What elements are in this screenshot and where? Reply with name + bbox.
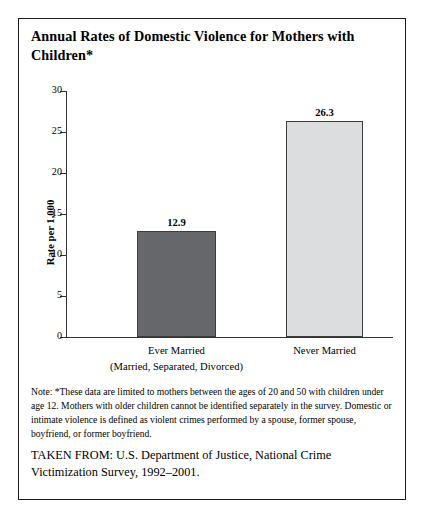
figure-source: TAKEN FROM: U.S. Department of Justice, … (31, 447, 395, 482)
y-axis-tick-label: 10 (52, 248, 62, 259)
page-title: Annual Rates of Domestic Violence for Mo… (31, 27, 383, 64)
y-axis-tick-label: 0 (57, 330, 62, 341)
bar-1: 12.9 (137, 231, 216, 337)
bar-value-label: 26.3 (315, 107, 334, 118)
bar-2: 26.3 (286, 121, 363, 337)
y-axis-title: Rate per 1,000 (45, 178, 56, 288)
x-axis-category-name: Never Married (293, 345, 356, 356)
x-axis-category-label: Never Married (293, 343, 356, 359)
y-axis-tick-label: 5 (57, 289, 62, 300)
x-axis-category-sublabel: (Married, Separated, Divorced) (110, 359, 243, 375)
x-axis-category-name: Ever Married (148, 345, 205, 356)
bar-value-label: 12.9 (167, 217, 186, 228)
y-axis-tick-label: 15 (52, 207, 62, 218)
chart-region: Rate per 1,000 051015202530 12.926.3 Eve… (19, 75, 407, 381)
y-axis-tick-label: 25 (52, 125, 62, 136)
x-axis-category-label: Ever Married(Married, Separated, Divorce… (110, 343, 243, 375)
y-axis-tick-label: 20 (52, 166, 62, 177)
figure-note: Note: *These data are limited to mothers… (31, 385, 395, 441)
y-axis-tick-label: 30 (52, 84, 62, 95)
plot-area: 051015202530 12.926.3 Ever Married(Marri… (66, 91, 393, 337)
figure-frame: Annual Rates of Domestic Violence for Mo… (18, 18, 406, 500)
x-axis-line (66, 337, 393, 338)
